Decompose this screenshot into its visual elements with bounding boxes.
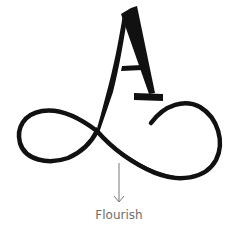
- flourish-swash-thick: [110, 143, 185, 178]
- flourish-label: Flourish: [0, 208, 234, 222]
- letter-a-left-stroke: [96, 12, 128, 133]
- letter-a-crossbar: [121, 65, 143, 71]
- flourish-letter-illustration: [0, 0, 234, 225]
- letter-a-serif: [134, 93, 163, 101]
